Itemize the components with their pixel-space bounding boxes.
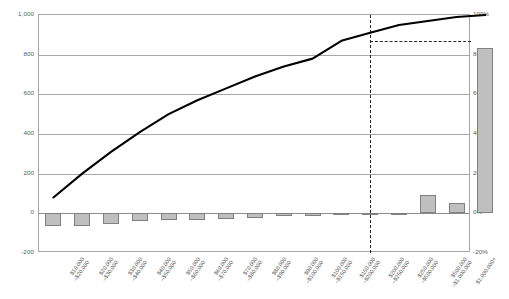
x-tick-label: $150,000–$200,000 [357,256,382,285]
x-tick-label: $500,000–$1,000,000 [445,256,473,289]
x-tick-label: $100,000–$150,000 [328,256,353,285]
y-tick-left: 1,000 [0,10,34,17]
x-tick-label: $20,000–$30,000 [96,256,120,282]
y-tick-right: -20% [473,248,507,255]
x-tick-label: $70,000–$80,000 [240,256,264,282]
y-tick-left: -200 [0,248,34,255]
y-tick-left: 800 [0,50,34,57]
gridline [39,253,469,254]
y-tick-left: 600 [0,89,34,96]
x-tick-label: $1,000,000+ [474,256,497,285]
x-tick-label: $250,000–$500,000 [414,256,439,285]
cumulative-line-path [53,15,485,197]
x-tick-label: $30,000–$40,000 [125,256,149,282]
cumulative-line-series [39,15,471,253]
x-tick-label: $60,000–$70,000 [211,256,235,282]
plot-area [38,14,470,252]
x-tick-label: $90,000–$100,000 [299,256,324,285]
x-tick-label: $80,000–$90,000 [269,256,293,282]
x-tick-label: $40,000–$50,000 [154,256,178,282]
chart-root: Net capital gain/federal Cumulative % of… [0,0,509,299]
bar [477,48,493,214]
x-tick-label: $10,000–$20,000 [67,256,91,282]
x-tick-label: $200,000–$250,000 [385,256,410,285]
x-tick-label: $50,000–$60,000 [183,256,207,282]
y-tick-left: 400 [0,129,34,136]
y-tick-left: 0 [0,208,34,215]
y-tick-left: 200 [0,169,34,176]
